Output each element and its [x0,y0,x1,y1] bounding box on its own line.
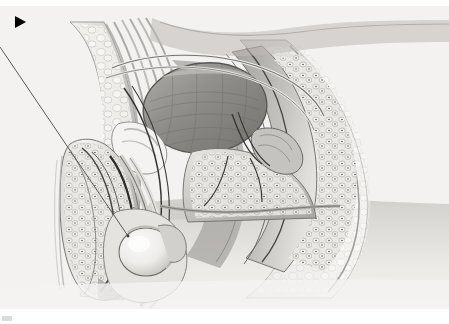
figure-root: male pelvis [0,0,449,324]
figure-caption: male pelvis [0,0,1,1]
illustration-plate [0,6,449,309]
page-corner-mark [2,316,12,321]
black-triangle-marker [15,16,26,28]
anatomy-illustration [0,6,449,309]
